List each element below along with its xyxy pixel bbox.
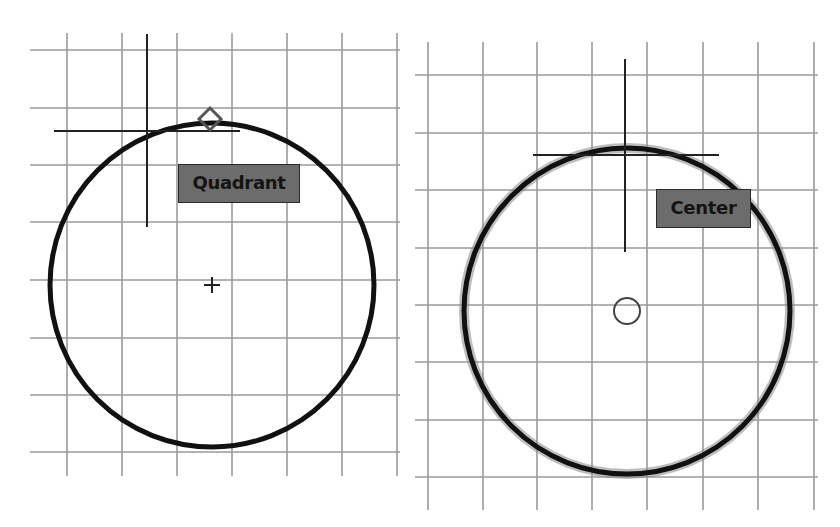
osnap-tooltip-center: Center — [656, 189, 751, 228]
diamond-icon — [199, 108, 221, 130]
circle-icon — [614, 298, 640, 324]
grid — [30, 33, 400, 476]
grid — [415, 42, 818, 510]
drawing-canvas-center[interactable] — [410, 0, 840, 527]
osnap-tooltip-quadrant: Quadrant — [178, 164, 300, 203]
drawing-canvas-quadrant[interactable] — [0, 0, 410, 527]
center-snap-panel: Center — [410, 0, 840, 527]
quadrant-snap-panel: Quadrant — [0, 0, 410, 527]
